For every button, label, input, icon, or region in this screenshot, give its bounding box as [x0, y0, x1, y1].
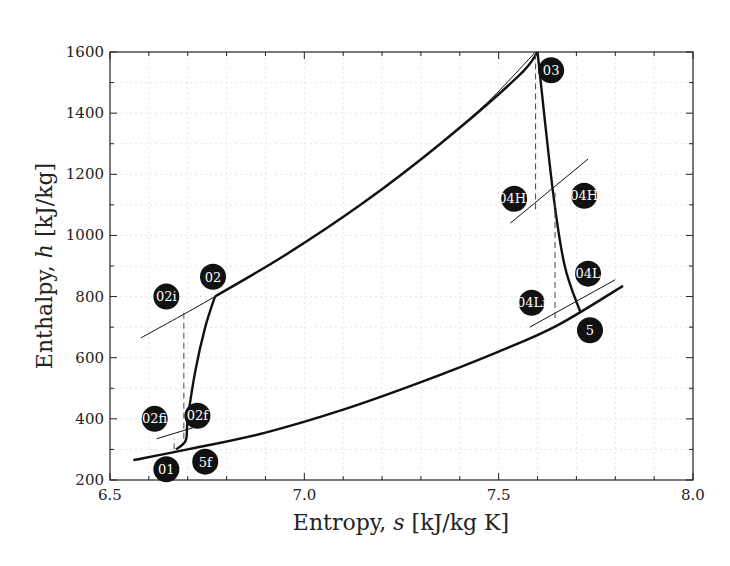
y-tick-label: 600 [75, 349, 104, 367]
svg-text:5: 5 [586, 323, 594, 338]
svg-text:02fi: 02fi [142, 411, 168, 426]
series-line [133, 286, 623, 460]
y-tick-label: 200 [75, 471, 104, 489]
state-point-02f: 02f [184, 403, 210, 429]
x-axis-title: Entropy, s [kJ/kg K] [293, 510, 509, 535]
y-tick-label: 1000 [66, 226, 104, 244]
series-line [538, 52, 581, 312]
svg-text:5f: 5f [199, 455, 213, 470]
svg-text:02: 02 [205, 270, 222, 285]
state-point-03: 03 [538, 57, 564, 83]
y-axis-title: Enthalpy, h [kJ/kg] [32, 163, 57, 369]
svg-text:04Hi: 04Hi [498, 191, 530, 206]
series-line [141, 52, 535, 338]
x-tick-label: 7.0 [292, 486, 316, 504]
h-s-diagram: 6.57.07.58.02004006008001000120014001600… [0, 0, 730, 566]
state-point-5: 5 [577, 317, 603, 343]
state-point-02fi: 02fi [142, 406, 168, 432]
state-point-04L: 04L [575, 261, 601, 287]
y-tick-label: 800 [75, 288, 104, 306]
state-point-5f: 5f [192, 449, 218, 475]
state-point-04Hi: 04Hi [498, 186, 530, 212]
svg-text:04L: 04L [575, 266, 601, 281]
x-tick-label: 7.5 [487, 486, 511, 504]
state-point-02: 02 [200, 264, 226, 290]
svg-text:04Li: 04Li [517, 295, 546, 310]
svg-text:04H: 04H [570, 188, 598, 203]
svg-text:02i: 02i [156, 289, 177, 304]
state-point-04Li: 04Li [517, 290, 546, 316]
y-tick-label: 400 [75, 410, 104, 428]
svg-text:03: 03 [543, 63, 560, 78]
state-point-01: 01 [153, 456, 179, 482]
y-tick-label: 1400 [66, 104, 104, 122]
y-tick-label: 1200 [66, 165, 104, 183]
svg-text:01: 01 [158, 462, 175, 477]
svg-text:02f: 02f [187, 408, 210, 423]
x-tick-label: 8.0 [681, 486, 705, 504]
y-tick-label: 1600 [66, 43, 104, 61]
state-point-04H: 04H [570, 183, 598, 209]
axis-ticks: 6.57.07.58.02004006008001000120014001600 [66, 43, 705, 504]
state-point-02i: 02i [153, 284, 179, 310]
